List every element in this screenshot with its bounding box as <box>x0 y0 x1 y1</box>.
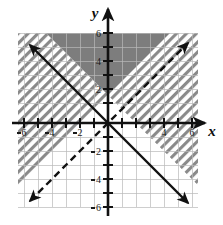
x-axis-label: x <box>207 123 216 139</box>
y-axis-label: y <box>90 5 99 21</box>
xtick-label-6: 6 <box>190 127 195 138</box>
xtick-label-4: 4 <box>162 127 167 138</box>
coordinate-plane-svg: 6 4 2 4 6 6 4 2 2 4 6 y x <box>0 0 223 225</box>
ytick-label-4: 4 <box>96 56 101 67</box>
xtick-label--2: 2 <box>78 127 83 138</box>
region-right-hatched-upper <box>108 5 198 185</box>
ytick-label--4: 4 <box>96 174 101 185</box>
ytick-label--2: 2 <box>96 146 101 157</box>
xtick-label--6: 6 <box>22 127 27 138</box>
ytick-label-2: 2 <box>96 84 101 95</box>
graph-figure: 6 4 2 4 6 6 4 2 2 4 6 y x <box>0 0 223 225</box>
ytick-label-6: 6 <box>96 28 101 39</box>
region-left-hatched-upper <box>18 5 108 185</box>
xtick-label--4: 4 <box>50 127 55 138</box>
ytick-label--6: 6 <box>96 202 101 213</box>
